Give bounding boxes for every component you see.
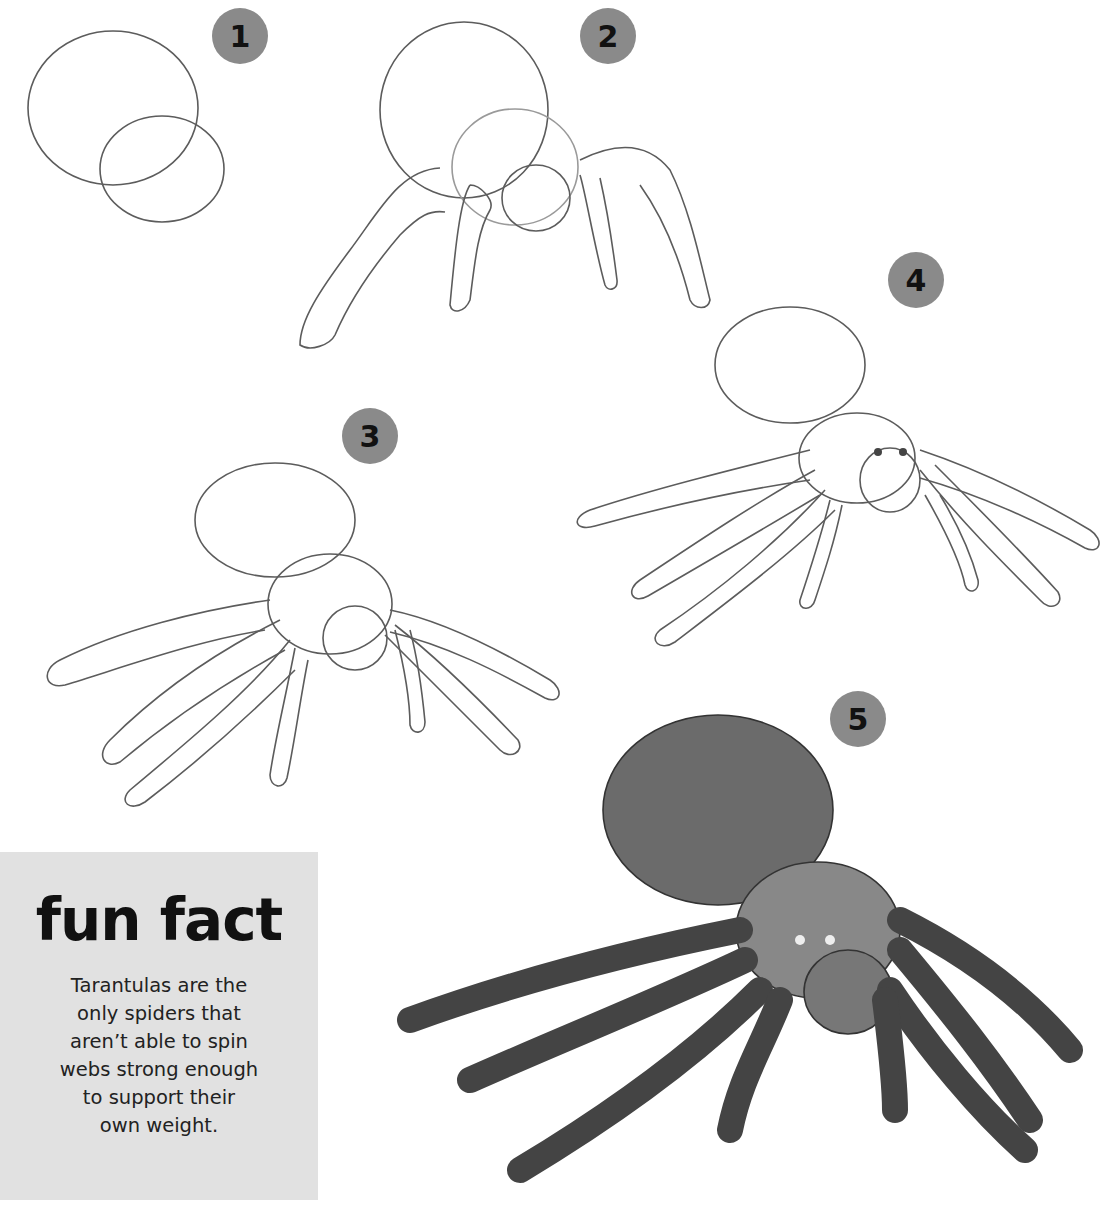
fun-fact-line: own weight. xyxy=(0,1112,318,1140)
step-badge-4: 4 xyxy=(888,252,944,308)
step-number: 3 xyxy=(360,419,381,454)
step-4-sketch xyxy=(577,307,1099,646)
step-number: 5 xyxy=(848,702,869,737)
fun-fact-line: aren’t able to spin xyxy=(0,1028,318,1056)
step-badge-3: 3 xyxy=(342,408,398,464)
step-badge-5: 5 xyxy=(830,691,886,747)
fun-fact-line: Tarantulas are the xyxy=(0,972,318,1000)
step-2-sketch xyxy=(300,22,710,348)
step-number: 2 xyxy=(598,19,619,54)
fun-fact-line: webs strong enough xyxy=(0,1056,318,1084)
fun-fact-text: Tarantulas are the only spiders that are… xyxy=(0,972,318,1140)
step-1-sketch xyxy=(28,31,224,222)
fun-fact-title: fun fact xyxy=(0,886,318,954)
step-3-sketch xyxy=(47,463,559,806)
fun-fact-box: fun fact Tarantulas are the only spiders… xyxy=(0,852,318,1200)
fun-fact-line: only spiders that xyxy=(0,1000,318,1028)
step-number: 4 xyxy=(906,263,927,298)
step-badge-2: 2 xyxy=(580,8,636,64)
step-badge-1: 1 xyxy=(212,8,268,64)
step-number: 1 xyxy=(230,19,251,54)
fun-fact-line: to support their xyxy=(0,1084,318,1112)
step-5-shaded-tarantula xyxy=(410,715,1070,1170)
